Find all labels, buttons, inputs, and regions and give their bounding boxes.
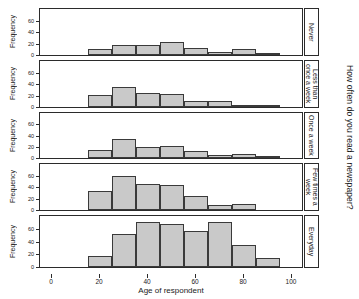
y-axis-tick — [36, 136, 39, 137]
histogram-bar — [160, 146, 184, 158]
y-axis-tick-label: 60 — [0, 121, 34, 127]
panel-5 — [39, 215, 303, 268]
x-axis-tick-label: 0 — [49, 278, 53, 285]
histogram-bar — [160, 224, 184, 267]
panel-strip-text: Few times a week — [304, 168, 319, 206]
y-axis-tick — [36, 44, 39, 45]
y-axis-tick — [36, 158, 39, 159]
histogram-bars — [40, 9, 302, 55]
histogram-bar — [160, 94, 184, 107]
y-axis-tick — [36, 187, 39, 188]
histogram-bars — [40, 216, 302, 267]
histogram-bar — [256, 105, 280, 107]
y-axis-tick-label: 40 — [0, 239, 34, 245]
y-axis-tick — [36, 73, 39, 74]
histogram-bar — [184, 101, 208, 107]
figure-title: How often do you read a newspaper? — [342, 0, 358, 274]
histogram-bar — [256, 53, 280, 55]
y-axis-tick — [36, 107, 39, 108]
panel-strip-text: Never — [308, 23, 316, 42]
histogram-bar — [136, 147, 160, 158]
y-axis-tick — [36, 199, 39, 200]
panel-strip-label-4: Few times a week — [304, 163, 319, 211]
histogram-bar — [232, 154, 256, 158]
histogram-bar — [208, 205, 232, 210]
panel-4 — [39, 163, 303, 211]
panel-strip-label-2: Less than once a week — [304, 60, 319, 108]
histogram-bar — [208, 222, 232, 267]
y-axis-tick — [36, 21, 39, 22]
y-axis-tick — [36, 267, 39, 268]
histogram-bar — [112, 87, 136, 107]
histogram-bars — [40, 164, 302, 210]
y-axis-tick — [36, 254, 39, 255]
y-axis-tick-label: 60 — [0, 173, 34, 179]
histogram-bar — [88, 256, 112, 267]
histogram-bar — [256, 156, 280, 158]
histogram-bar — [232, 245, 256, 267]
histogram-bar — [208, 101, 232, 107]
panel-strip-text: Once a week — [308, 115, 316, 156]
histogram-bar — [112, 45, 136, 55]
histogram-bar — [112, 234, 136, 267]
y-axis-tick-label: 60 — [0, 18, 34, 24]
histogram-bar — [184, 48, 208, 55]
y-axis-tick-label: 20 — [0, 196, 34, 202]
panel-strip-label-5: Everyday — [304, 215, 319, 268]
histogram-bar — [136, 222, 160, 267]
x-axis-tick-label: 40 — [143, 278, 150, 285]
trellis-histogram-figure: How often do you read a newspaper? Frequ… — [0, 0, 359, 299]
y-axis-tick-label: 20 — [0, 41, 34, 47]
histogram-bar — [208, 155, 232, 158]
x-axis: 020406080100 — [39, 274, 303, 286]
histogram-bar — [232, 204, 256, 210]
y-axis-tick-label: 0 — [0, 207, 34, 213]
x-axis-tick-label: 20 — [95, 278, 102, 285]
panel-strip-label-1: Never — [304, 8, 319, 56]
plot-area-panel-4 — [39, 163, 303, 211]
plot-area-panel-3 — [39, 112, 303, 159]
plot-area-panel-1 — [39, 8, 303, 56]
y-axis-tick-label: 40 — [0, 29, 34, 35]
y-axis-tick-label: 60 — [0, 226, 34, 232]
panel-1 — [39, 8, 303, 56]
y-axis-tick — [36, 210, 39, 211]
x-axis-label: Age of respondent — [39, 286, 303, 295]
y-axis-tick-label: 40 — [0, 133, 34, 139]
histogram-bar — [256, 258, 280, 267]
y-axis-tick — [36, 124, 39, 125]
x-axis-tick-label: 60 — [191, 278, 198, 285]
histogram-bar — [88, 150, 112, 158]
panel-strip-text: Everyday — [308, 227, 316, 256]
y-axis-tick-label: 40 — [0, 184, 34, 190]
y-axis-tick-label: 40 — [0, 81, 34, 87]
histogram-bar — [160, 42, 184, 55]
y-axis-tick — [36, 84, 39, 85]
y-axis-tick-label: 20 — [0, 93, 34, 99]
panel-strip-label-3: Once a week — [304, 112, 319, 159]
panel-strip-text: Less than once a week — [304, 64, 319, 103]
x-axis-tick-label: 100 — [286, 278, 297, 285]
histogram-bar — [88, 191, 112, 210]
y-axis-tick — [36, 32, 39, 33]
y-axis-tick — [36, 96, 39, 97]
y-axis-tick-label: 0 — [0, 104, 34, 110]
y-axis-tick-label: 60 — [0, 70, 34, 76]
histogram-bar — [88, 95, 112, 107]
histogram-bar — [184, 151, 208, 158]
y-axis-tick-label: 0 — [0, 264, 34, 270]
histogram-bar — [136, 93, 160, 107]
y-axis-tick — [36, 229, 39, 230]
histogram-bar — [88, 49, 112, 55]
panel-3 — [39, 112, 303, 159]
histogram-bars — [40, 61, 302, 107]
y-axis-tick-label: 20 — [0, 251, 34, 257]
y-axis-tick — [36, 55, 39, 56]
y-axis-tick — [36, 242, 39, 243]
histogram-bar — [112, 176, 136, 211]
figure-title-text: How often do you read a newspaper? — [345, 65, 355, 210]
panel-2 — [39, 60, 303, 108]
histogram-bar — [136, 45, 160, 55]
x-axis-tick-label: 80 — [239, 278, 246, 285]
histogram-bar — [184, 231, 208, 267]
